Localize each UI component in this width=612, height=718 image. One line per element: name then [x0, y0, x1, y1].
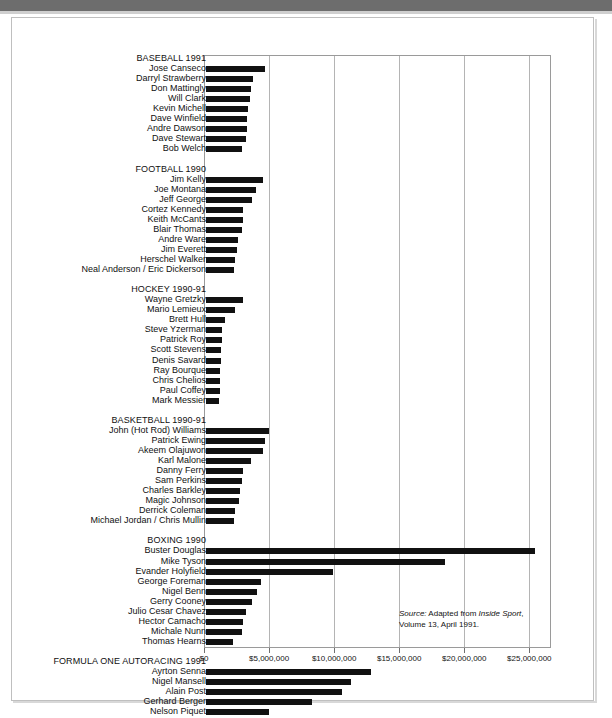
bar-label: Thomas Hearns	[142, 636, 206, 646]
bar-label: Darryl Strawberry	[136, 73, 206, 83]
bar-label: Dave Winfield	[150, 113, 206, 123]
bar	[206, 609, 246, 615]
bar	[206, 116, 247, 122]
bar	[206, 679, 351, 685]
bar-row: John (Hot Rod) Williams	[0, 427, 612, 437]
bar-label: Gerhard Berger	[143, 696, 206, 706]
source-text-before: Adapted from	[427, 609, 479, 618]
bar-label: Chris Chelios	[152, 375, 206, 385]
bar	[206, 438, 265, 444]
bar	[206, 488, 240, 494]
bar-label: Akeem Olajuwon	[138, 445, 206, 455]
bar-label: Jose Canseco	[149, 63, 206, 73]
bar	[206, 579, 261, 585]
x-axis-tick-label: $5,000,000	[249, 653, 289, 665]
bar-label: Andre Ware	[158, 234, 206, 244]
bar	[206, 207, 243, 213]
bar	[206, 347, 221, 353]
bar-label: Patrick Roy	[160, 334, 206, 344]
bar-label: Will Clark	[168, 93, 206, 103]
bar-row: Patrick Ewing	[0, 437, 612, 447]
bar-label: Herschel Walker	[140, 254, 206, 264]
bar-row: Scott Stevens	[0, 346, 612, 356]
bar-row: Jim Everett	[0, 246, 612, 256]
bar-row: Thomas Hearns	[0, 638, 612, 648]
bar-label: Hector Camacho	[138, 616, 206, 626]
bar-row: Denis Savard	[0, 357, 612, 367]
bar	[206, 548, 535, 554]
bar	[206, 388, 220, 394]
x-axis-tick-labels: $0$5,000,000$10,000,000$15,000,000$20,00…	[0, 653, 612, 667]
bar	[206, 227, 242, 233]
bar-row: Ray Bourque	[0, 367, 612, 377]
bar-label: Mark Messier	[152, 395, 206, 405]
bar-label: Joe Montana	[154, 184, 206, 194]
bar	[206, 639, 233, 645]
x-axis-tick-label: $0	[200, 653, 209, 665]
bar	[206, 599, 252, 605]
bar	[206, 307, 235, 313]
bar-row: Kevin Michell	[0, 105, 612, 115]
bar-row: Will Clark	[0, 95, 612, 105]
bar	[206, 478, 242, 484]
bar-row: Jose Canseco	[0, 65, 612, 75]
bar-label: George Foreman	[137, 576, 206, 586]
bar	[206, 508, 235, 514]
bar-row: Nelson Piquet	[0, 708, 612, 718]
bar-row: Charles Barkley	[0, 487, 612, 497]
bar-row: Akeem Olajuwon	[0, 447, 612, 457]
bar-label: Gerry Cooney	[150, 596, 206, 606]
bar-row: Patrick Roy	[0, 336, 612, 346]
bar	[206, 368, 220, 374]
bar-row: Mark Messier	[0, 397, 612, 407]
bar-row: Jim Kelly	[0, 176, 612, 186]
bar-label: Andre Dawson	[147, 123, 206, 133]
bar-label: Mario Lemieux	[147, 304, 206, 314]
section-header-label: BASEBALL 1991	[136, 53, 206, 63]
bar	[206, 709, 269, 715]
bar-label: Kevin Michell	[153, 103, 206, 113]
bar-row: Chris Chelios	[0, 377, 612, 387]
bar-row: Brett Hull	[0, 316, 612, 326]
x-axis-tick-label: $15,000,000	[377, 653, 422, 665]
bar-label: Charles Barkley	[142, 485, 206, 495]
bar-row: Mike Tyson	[0, 558, 612, 568]
bar	[206, 187, 256, 193]
section-header-row: BASKETBALL 1990-91	[0, 417, 612, 427]
bar	[206, 86, 251, 92]
bar-row: Paul Coffey	[0, 387, 612, 397]
bar-row: Magic Johnson	[0, 497, 612, 507]
bar-label: Dave Stewart	[152, 133, 206, 143]
bar-label: Ayrton Senna	[152, 666, 206, 676]
bar	[206, 518, 234, 524]
section-header-label: BASKETBALL 1990-91	[111, 415, 206, 425]
bar-row: Alain Post	[0, 688, 612, 698]
bar-row: Keith McCants	[0, 216, 612, 226]
bar	[206, 247, 237, 253]
bar-row: Nigel Mansell	[0, 678, 612, 688]
bar-label: Wayne Gretzky	[145, 294, 206, 304]
bar-row: Michael Jordan / Chris Mullin	[0, 517, 612, 527]
bar	[206, 398, 219, 404]
bar-label: Blair Thomas	[153, 224, 206, 234]
bar-label: Don Mattingly	[151, 83, 206, 93]
bar-row: Bob Welch	[0, 145, 612, 155]
bar-row: Neal Anderson / Eric Dickerson	[0, 266, 612, 276]
source-prefix: Source:	[399, 609, 427, 618]
bar-row: Dave Winfield	[0, 115, 612, 125]
bar-label: Ray Bourque	[153, 365, 206, 375]
bar	[206, 237, 238, 243]
bar	[206, 448, 263, 454]
bar-row: George Foreman	[0, 578, 612, 588]
bar-label: Scott Stevens	[150, 344, 206, 354]
bar-label: John (Hot Rod) Williams	[109, 425, 206, 435]
bar	[206, 297, 243, 303]
bar	[206, 358, 221, 364]
bar-label: Cortez Kennedy	[141, 204, 206, 214]
bar	[206, 498, 239, 504]
bar-label: Karl Malone	[158, 455, 206, 465]
bar-row: Gerry Cooney	[0, 598, 612, 608]
section-header-row: BASEBALL 1991	[0, 55, 612, 65]
section-header-row: FOOTBALL 1990	[0, 166, 612, 176]
bar-row: Sam Perkins	[0, 477, 612, 487]
